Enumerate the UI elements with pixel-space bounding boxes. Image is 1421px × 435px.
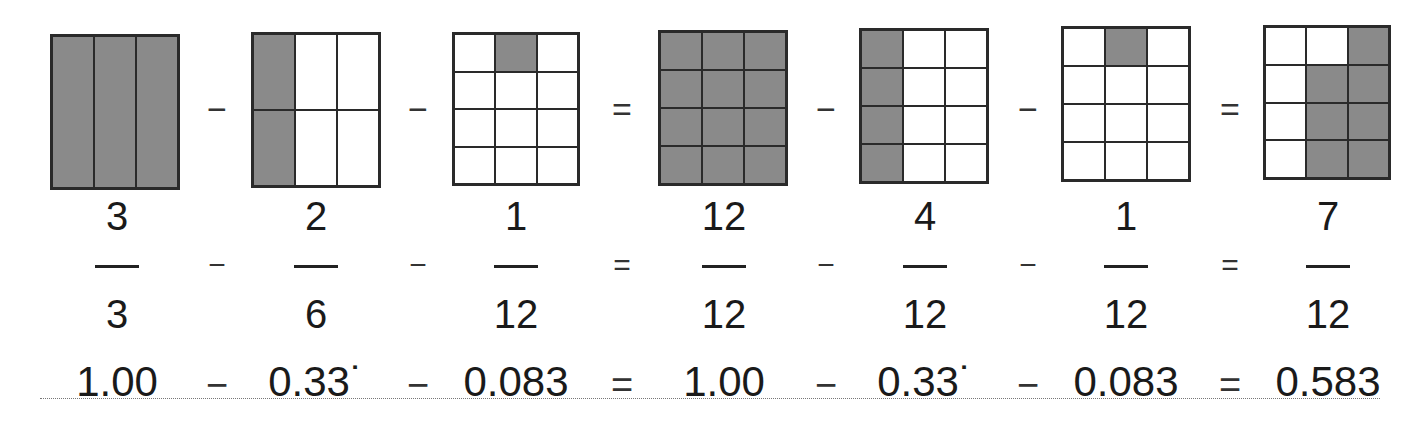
empty-cell [337, 34, 379, 110]
fraction-model-2 [251, 32, 381, 188]
separator-line [40, 398, 1380, 399]
fraction-model-6 [1061, 26, 1191, 182]
shaded-cell [660, 32, 702, 70]
minus-sign: − [1019, 250, 1037, 280]
shaded-cell [253, 110, 295, 186]
shaded-cell [1348, 27, 1389, 65]
empty-cell [454, 72, 495, 110]
denominator: 12 [903, 292, 948, 337]
empty-cell [1063, 66, 1105, 104]
denominator: 3 [106, 292, 128, 337]
empty-cell [1147, 104, 1189, 142]
shaded-cell [861, 144, 903, 182]
equals-sign: = [613, 250, 631, 280]
empty-cell [945, 144, 987, 182]
shaded-cell [1348, 65, 1389, 103]
empty-cell [1105, 104, 1147, 142]
empty-cell [1063, 104, 1105, 142]
fraction-bar [1104, 265, 1148, 268]
shaded-cell [1348, 140, 1389, 178]
empty-cell [1306, 27, 1347, 65]
shaded-cell [94, 36, 136, 188]
fraction-model-1 [50, 34, 180, 190]
empty-cell [903, 144, 945, 182]
fraction-model-3 [452, 32, 580, 186]
shaded-cell [52, 36, 94, 188]
shaded-cell [1306, 140, 1347, 178]
numerator: 2 [305, 194, 327, 239]
empty-cell [1265, 65, 1306, 103]
shaded-cell [702, 108, 744, 146]
shaded-cell [1306, 103, 1347, 141]
empty-cell [945, 30, 987, 68]
denominator: 12 [1104, 292, 1149, 337]
shaded-cell [861, 68, 903, 106]
empty-cell [295, 110, 337, 186]
empty-cell [537, 147, 578, 185]
empty-cell [454, 147, 495, 185]
minus-sign: − [207, 92, 227, 126]
fraction-bar [702, 265, 746, 268]
empty-cell [1105, 66, 1147, 104]
empty-cell [337, 110, 379, 186]
shaded-cell [744, 32, 786, 70]
denominator: 12 [702, 292, 747, 337]
denominator: 12 [494, 292, 539, 337]
shaded-cell [660, 70, 702, 108]
equals-sign: = [1220, 92, 1240, 126]
numerator: 4 [914, 194, 936, 239]
empty-cell [537, 72, 578, 110]
fraction-bar [294, 265, 338, 268]
empty-cell [495, 147, 536, 185]
empty-cell [945, 68, 987, 106]
empty-cell [1063, 28, 1105, 66]
numerator: 1 [1115, 194, 1137, 239]
empty-cell [1147, 28, 1189, 66]
minus-sign: − [408, 92, 428, 126]
fraction-model-5 [859, 28, 989, 184]
equals-sign: = [612, 92, 632, 126]
minus-sign: − [409, 250, 427, 280]
minus-sign: − [1018, 92, 1038, 126]
minus-sign: − [816, 92, 836, 126]
empty-cell [295, 34, 337, 110]
denominator: 6 [305, 292, 327, 337]
numerator: 7 [1317, 194, 1339, 239]
empty-cell [903, 68, 945, 106]
shaded-cell [136, 36, 178, 188]
empty-cell [454, 109, 495, 147]
numerator: 12 [702, 194, 747, 239]
empty-cell [1265, 103, 1306, 141]
shaded-cell [660, 146, 702, 184]
empty-cell [537, 34, 578, 72]
fraction-bar [494, 265, 538, 268]
shaded-cell [1105, 28, 1147, 66]
shaded-cell [744, 108, 786, 146]
empty-cell [495, 109, 536, 147]
empty-cell [945, 106, 987, 144]
shaded-cell [861, 30, 903, 68]
fraction-model-7 [1263, 25, 1391, 180]
fraction-bar [903, 265, 947, 268]
empty-cell [903, 30, 945, 68]
numerator: 1 [505, 194, 527, 239]
empty-cell [495, 72, 536, 110]
shaded-cell [702, 32, 744, 70]
empty-cell [1063, 142, 1105, 180]
fraction-model-4 [658, 30, 788, 186]
empty-cell [1147, 66, 1189, 104]
shaded-cell [702, 146, 744, 184]
denominator: 12 [1306, 292, 1351, 337]
minus-sign: − [817, 250, 835, 280]
shaded-cell [702, 70, 744, 108]
fraction-bar [1306, 265, 1350, 268]
empty-cell [903, 106, 945, 144]
numerator: 3 [106, 194, 128, 239]
fraction-bar [95, 265, 139, 268]
shaded-cell [861, 106, 903, 144]
equals-sign: = [1221, 250, 1239, 280]
shaded-cell [253, 34, 295, 110]
shaded-cell [1306, 65, 1347, 103]
empty-cell [454, 34, 495, 72]
empty-cell [1265, 27, 1306, 65]
